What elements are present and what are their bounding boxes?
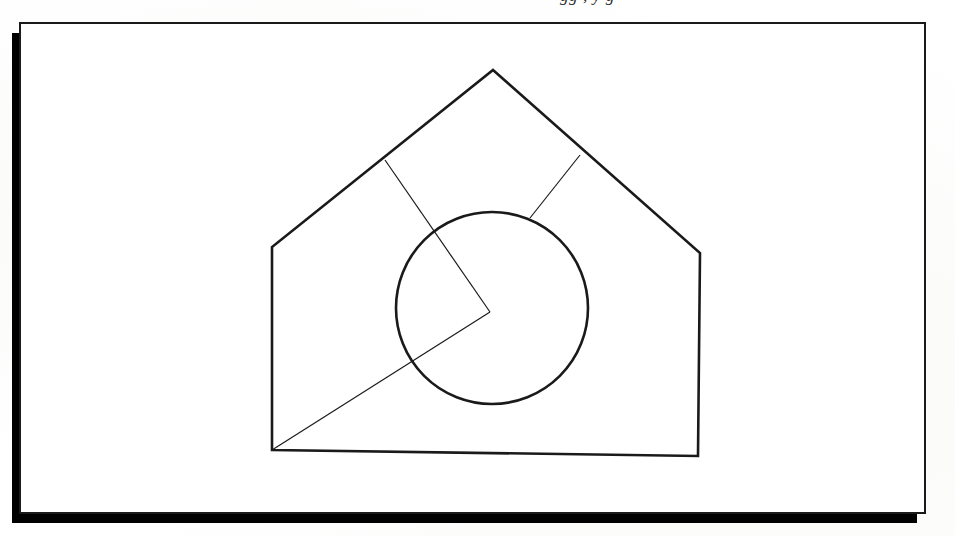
page-sheet [20,23,925,513]
scanned-page-canvas: gg , y g [0,0,955,536]
geometry-figure [0,0,955,536]
